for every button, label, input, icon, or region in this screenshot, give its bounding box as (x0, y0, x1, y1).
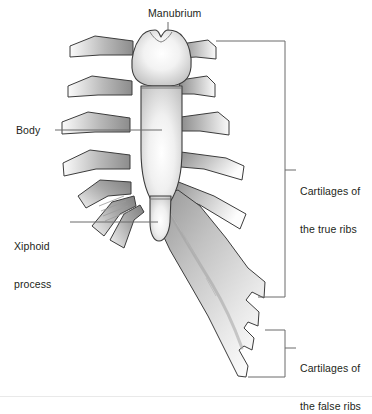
left-cartilage-2 (68, 76, 132, 97)
label-xiphoid-line2: process (14, 278, 51, 291)
label-manubrium: Manubrium (148, 7, 201, 20)
sternal-body-bone (141, 86, 182, 208)
right-cartilage-3 (181, 112, 229, 135)
label-cartilages-true-ribs: Cartilages of the true ribs (300, 160, 360, 248)
label-xiphoid-line1: Xiphoid (14, 240, 51, 253)
label-true-ribs-line2: the true ribs (300, 223, 360, 236)
label-false-ribs-line1: Cartilages of (300, 362, 361, 375)
label-false-ribs-line2: the false ribs (300, 400, 361, 413)
bottom-border (0, 396, 372, 397)
label-body: Body (16, 124, 40, 137)
manubrium-bone (132, 30, 191, 86)
label-true-ribs-line1: Cartilages of (300, 185, 360, 198)
left-cartilage-4 (63, 150, 130, 176)
label-xiphoid-process: Xiphoid process (14, 215, 51, 303)
left-cartilage-3 (62, 112, 130, 134)
label-cartilages-false-ribs: Cartilages of the false ribs (300, 337, 361, 414)
left-cartilage-1 (70, 36, 133, 57)
bracket-false-ribs (248, 330, 296, 377)
right-cartilage-4 (181, 152, 244, 180)
